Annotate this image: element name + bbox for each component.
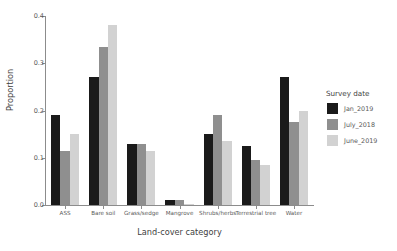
bar	[165, 200, 174, 205]
x-axis-title: Land-cover category	[46, 228, 313, 236]
x-tick-label: ASS	[60, 211, 71, 217]
legend-item-label: June_2019	[344, 138, 377, 144]
plot-area	[46, 16, 313, 205]
x-tick-mark	[180, 206, 181, 209]
x-tick-label: Shrubs/herbs	[199, 211, 236, 217]
bar	[213, 115, 222, 205]
legend-item[interactable]: Jan_2019	[326, 102, 396, 115]
bar	[175, 200, 184, 205]
bar	[289, 122, 298, 205]
y-tick-label: 0.0	[34, 202, 44, 209]
y-tick-label: 0.1	[34, 155, 44, 162]
legend-swatch	[326, 102, 339, 115]
bar	[280, 77, 289, 205]
bar	[146, 151, 155, 205]
bar	[51, 115, 60, 205]
bar	[204, 134, 213, 205]
legend-item[interactable]: July_2018	[326, 118, 396, 131]
legend-item-label: Jan_2019	[344, 106, 373, 112]
y-tick-label: 0.4	[34, 13, 44, 20]
x-tick-mark	[218, 206, 219, 209]
legend-title: Survey date	[326, 90, 396, 97]
x-tick-label: Water	[286, 211, 303, 217]
x-tick-mark	[65, 206, 66, 209]
bar	[127, 144, 136, 205]
bar	[251, 160, 260, 205]
x-tick-label: Bare soil	[91, 211, 115, 217]
bar	[108, 25, 117, 205]
x-tick-label: Terrestrial tree	[235, 211, 276, 217]
bar	[260, 165, 269, 205]
x-tick-mark	[103, 206, 104, 209]
bar	[222, 141, 231, 205]
bar	[60, 151, 69, 205]
bar	[184, 204, 193, 205]
bar	[299, 111, 308, 206]
legend-entries: Jan_2019July_2018June_2019	[326, 102, 396, 147]
legend-item-label: July_2018	[344, 122, 375, 128]
y-tick-label: 0.2	[34, 108, 44, 115]
legend-item[interactable]: June_2019	[326, 134, 396, 147]
x-tick-label: Mangrove	[166, 211, 194, 217]
legend: Survey date Jan_2019July_2018June_2019	[326, 90, 396, 150]
y-tick-label: 0.3	[34, 60, 44, 67]
y-axis-title: Proportion	[6, 69, 14, 111]
x-tick-mark	[141, 206, 142, 209]
legend-swatch	[326, 118, 339, 131]
x-tick-mark	[256, 206, 257, 209]
bar	[137, 144, 146, 205]
y-axis-line	[45, 16, 46, 206]
bar-chart-figure: 0.00.10.20.30.4 ASSBare soilGrass/sedgeM…	[0, 0, 397, 251]
x-tick-mark	[294, 206, 295, 209]
x-tick-label: Grass/sedge	[124, 211, 159, 217]
bar	[99, 47, 108, 205]
bar	[70, 134, 79, 205]
bar	[89, 77, 98, 205]
bar	[242, 146, 251, 205]
legend-swatch	[326, 134, 339, 147]
